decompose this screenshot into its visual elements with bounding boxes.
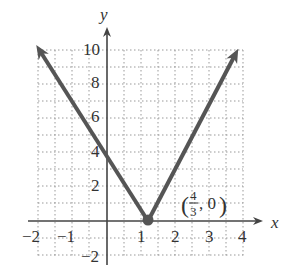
svg-text:3: 3 <box>190 204 197 219</box>
absolute-value-graph: y x −2 −1 1 2 3 4 −2 2 4 6 8 10 ( 4 3 , … <box>0 0 291 276</box>
y-tick: 4 <box>91 142 100 161</box>
svg-text:(: ( <box>181 192 189 218</box>
svg-text:4: 4 <box>190 188 197 203</box>
x-tick: 1 <box>137 227 146 246</box>
vertex-point <box>143 215 154 226</box>
y-tick: −2 <box>81 247 99 266</box>
x-tick: −1 <box>57 227 75 246</box>
svg-text:): ) <box>219 192 227 218</box>
y-tick: 6 <box>91 107 100 126</box>
x-axis-label: x <box>270 213 279 232</box>
y-tick: 10 <box>83 40 100 59</box>
svg-text:, 0: , 0 <box>199 194 216 213</box>
x-tick: 3 <box>205 227 214 246</box>
x-tick: 4 <box>238 227 247 246</box>
y-tick: 2 <box>91 176 100 195</box>
y-axis-label: y <box>98 5 108 24</box>
y-tick: 8 <box>91 73 100 92</box>
x-tick: 2 <box>171 227 180 246</box>
x-tick: −2 <box>22 227 40 246</box>
vertex-annotation: ( 4 3 , 0 ) <box>181 188 227 219</box>
